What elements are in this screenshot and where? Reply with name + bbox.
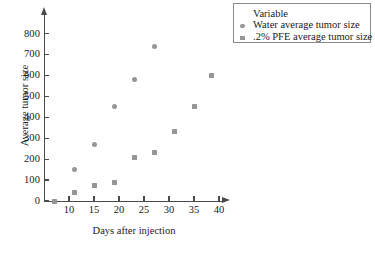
y-tick-mark (44, 75, 49, 76)
data-point-square (112, 180, 117, 185)
data-point-square (92, 183, 97, 188)
legend-circle-marker-icon (240, 24, 245, 29)
y-axis-line (44, 14, 45, 202)
y-tick-mark (44, 138, 49, 139)
scatter-chart-screenshot: 0100200300400500600700800 10152025303540… (0, 0, 375, 255)
data-point-circle (112, 104, 117, 109)
legend-item-label: .2% PFE average tumor size (253, 31, 372, 43)
x-tick-mark (93, 196, 94, 201)
legend-title: Variable (253, 8, 288, 19)
y-tick-mark (44, 33, 49, 34)
y-tick-mark (44, 54, 49, 55)
data-point-square (72, 190, 77, 195)
x-tick-mark (168, 196, 169, 201)
y-tick-mark (44, 179, 49, 180)
data-point-circle (72, 167, 77, 172)
y-axis-arrow-icon (41, 7, 47, 15)
y-tick-label: 100 (0, 175, 40, 186)
data-point-square (152, 150, 157, 155)
legend-item-label: Water average tumor size (253, 19, 360, 31)
data-point-square (132, 155, 137, 160)
data-point-square (192, 104, 197, 109)
data-point-circle (152, 44, 157, 49)
y-tick-mark (44, 200, 49, 201)
legend-box: Variable Water average tumor size .2% PF… (233, 3, 371, 43)
y-tick-mark (44, 117, 49, 118)
data-point-square (172, 129, 177, 134)
data-point-circle (92, 142, 97, 147)
x-axis-title: Days after injection (44, 225, 224, 236)
x-tick-mark (218, 196, 219, 201)
y-axis-title: Average tumor size (19, 41, 30, 171)
x-axis-line (44, 201, 224, 202)
y-tick-label: 0 (0, 196, 40, 207)
x-tick-mark (118, 196, 119, 201)
data-point-square (209, 73, 214, 78)
y-tick-mark (44, 96, 49, 97)
x-tick-mark (143, 196, 144, 201)
x-tick-mark (68, 196, 69, 201)
x-tick-label: 40 (204, 205, 234, 216)
data-point-square (52, 199, 57, 204)
legend-square-marker-icon (240, 36, 245, 41)
y-tick-mark (44, 159, 49, 160)
y-tick-label: 800 (0, 29, 40, 40)
data-point-circle (132, 77, 137, 82)
x-axis-arrow-icon (222, 197, 230, 203)
x-tick-mark (193, 196, 194, 201)
